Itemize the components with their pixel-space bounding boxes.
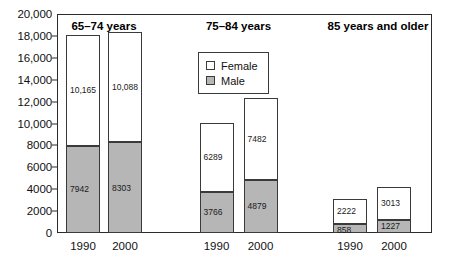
- bar-segment-male: 8303: [108, 142, 142, 233]
- bar-segment-male: 7942: [66, 146, 100, 233]
- bar-segment-male: 1227: [377, 220, 411, 233]
- bar-segment-male: 4879: [244, 180, 278, 233]
- legend-item: Female: [206, 58, 258, 73]
- bar-value-label-female: 2222: [337, 207, 356, 216]
- bar-segment-male: 3766: [200, 192, 234, 233]
- y-tick-mark: [52, 211, 57, 212]
- y-tick-mark: [52, 123, 57, 124]
- bar-value-label-female: 3013: [381, 199, 400, 208]
- legend-label: Male: [221, 75, 245, 87]
- stacked-bar: 10,1657942: [66, 35, 100, 233]
- bar-segment-female: 10,165: [66, 35, 100, 146]
- bar-value-label-male: 4879: [248, 202, 267, 211]
- bar-value-label-male: 8303: [112, 184, 131, 193]
- y-tick-mark: [52, 189, 57, 190]
- bar-segment-male: 858: [333, 224, 367, 233]
- y-tick-label: 8000: [27, 139, 52, 151]
- stacked-bar: 30131227: [377, 187, 411, 233]
- y-tick-label: 0: [46, 227, 52, 239]
- bar-segment-female: 2222: [333, 199, 367, 223]
- legend-label: Female: [221, 60, 258, 72]
- bar-segment-female: 3013: [377, 187, 411, 220]
- y-tick-label: 14,000: [17, 74, 52, 86]
- bar-value-label-female: 10,165: [70, 86, 96, 95]
- x-axis-year-label: 1990: [70, 240, 96, 252]
- y-tick-mark: [52, 145, 57, 146]
- bar-value-label-female: 10,088: [112, 83, 138, 92]
- y-tick-mark: [52, 57, 57, 58]
- bar-segment-female: 6289: [200, 123, 234, 192]
- y-tick-label: 18,000: [17, 30, 52, 42]
- stacked-bar: 10,0888303: [108, 32, 142, 233]
- chart-container: 0200040006000800010,00012,00014,00016,00…: [0, 0, 450, 265]
- bar-value-label-male: 7942: [70, 185, 89, 194]
- y-tick-label: 12,000: [17, 96, 52, 108]
- x-axis-year-label: 1990: [337, 240, 363, 252]
- y-tick-label: 2000: [27, 205, 52, 217]
- y-tick-mark: [52, 101, 57, 102]
- y-tick-mark: [52, 167, 57, 168]
- y-axis: 0200040006000800010,00012,00014,00016,00…: [0, 0, 52, 265]
- legend: FemaleMale: [198, 52, 269, 94]
- y-tick-label: 20,000: [17, 8, 52, 20]
- bar-value-label-female: 6289: [204, 153, 223, 162]
- legend-item: Male: [206, 73, 258, 88]
- x-axis-year-label: 2000: [381, 240, 407, 252]
- x-axis-year-label: 2000: [248, 240, 274, 252]
- y-tick-label: 16,000: [17, 52, 52, 64]
- x-axis-year-label: 2000: [112, 240, 138, 252]
- x-axis-year-label: 1990: [204, 240, 230, 252]
- y-tick-mark: [52, 35, 57, 36]
- bar-value-label-female: 7482: [248, 135, 267, 144]
- stacked-bar: 2222858: [333, 199, 367, 233]
- bar-value-label-male: 858: [337, 226, 351, 235]
- bar-value-label-male: 1227: [381, 222, 400, 231]
- y-tick-label: 10,000: [17, 118, 52, 130]
- stacked-bar: 62893766: [200, 123, 234, 233]
- legend-swatch-male-icon: [206, 76, 215, 85]
- group-title: 65–74 years: [71, 20, 136, 32]
- bar-segment-female: 10,088: [108, 32, 142, 142]
- y-tick-mark: [52, 79, 57, 80]
- group-title: 85 years and older: [328, 20, 429, 32]
- stacked-bar: 74824879: [244, 98, 278, 233]
- group-title: 75–84 years: [206, 20, 271, 32]
- bar-segment-female: 7482: [244, 98, 278, 180]
- legend-swatch-female-icon: [206, 61, 215, 70]
- y-tick-label: 4000: [27, 183, 52, 195]
- bar-value-label-male: 3766: [204, 208, 223, 217]
- y-tick-label: 6000: [27, 161, 52, 173]
